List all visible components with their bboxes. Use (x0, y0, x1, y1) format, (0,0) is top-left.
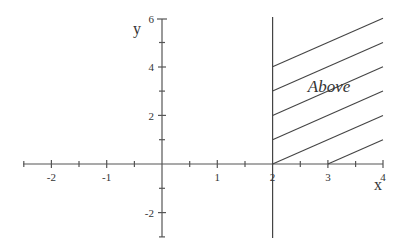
x-axis-label: x (374, 176, 382, 193)
x-tick-label: -1 (102, 171, 111, 183)
y-tick-label: 2 (149, 110, 155, 122)
x-tick-label: 3 (325, 171, 331, 183)
y-axis-label: y (133, 20, 141, 38)
x-tick-label: 1 (215, 171, 221, 183)
hatch-line (273, 115, 383, 164)
region-label-above: Above (307, 77, 351, 96)
hatch-line (273, 91, 383, 140)
y-tick-label: 4 (149, 61, 155, 73)
y-tick-label: -2 (145, 207, 154, 219)
x-tick-label: 2 (270, 171, 276, 183)
y-axis (157, 19, 167, 237)
x-tick-label: -2 (47, 171, 56, 183)
hatch-line (273, 18, 383, 67)
y-tick-label: 6 (149, 13, 155, 25)
hatch-line (328, 140, 383, 164)
chart-canvas: -2 -1 1 2 3 4 6 4 2 -2 y x Above (0, 0, 405, 246)
